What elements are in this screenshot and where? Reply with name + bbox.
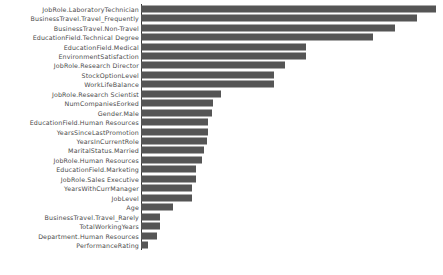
bar-track (141, 5, 436, 12)
feature-importance-bar-chart: JobRole.LaboratoryTechnicianBusinessTrav… (0, 0, 443, 275)
bar-row: JobRole.Sales Executive (0, 174, 443, 183)
bar-row: BusinessTravel.Travel_Rarely (0, 212, 443, 221)
bar-row: EnvironmentSatisfaction (0, 51, 443, 60)
bar-fill (141, 81, 274, 88)
bar-fill (141, 24, 395, 31)
bar-track (141, 204, 173, 211)
bar-track (141, 194, 192, 201)
bar-fill (141, 185, 192, 192)
bar-category-label: EducationField.Medical (64, 43, 139, 50)
bar-fill (141, 223, 160, 230)
bar-track (141, 119, 208, 126)
bar-row: JobLevel (0, 193, 443, 202)
bar-fill (141, 62, 285, 69)
bar-track (141, 128, 208, 135)
bar-category-label: YearsSinceLastPromotion (57, 128, 139, 135)
bar-track (141, 43, 306, 50)
bar-row: BusinessTravel.Non-Travel (0, 23, 443, 32)
bar-fill (141, 156, 202, 163)
bar-fill (141, 175, 196, 182)
bar-category-label: StockOptionLevel (82, 71, 139, 78)
bar-track (141, 232, 157, 239)
bar-track (141, 185, 192, 192)
bar-row: TotalWorkingYears (0, 221, 443, 230)
bar-track (141, 62, 285, 69)
bar-row: YearsWithCurrManager (0, 184, 443, 193)
bar-track (141, 175, 196, 182)
bar-category-label: JobRole.Human Resources (53, 156, 139, 163)
bar-fill (141, 43, 306, 50)
bar-category-label: PerformanceRating (76, 241, 139, 248)
bar-row: YearsSinceLastPromotion (0, 127, 443, 136)
bar-category-label: JobRole.Research Director (54, 62, 139, 69)
bar-row: WorkLifeBalance (0, 80, 443, 89)
bar-row: JobRole.Research Scientist (0, 89, 443, 98)
bar-category-label: MaritalStatus.Married (68, 147, 139, 154)
bar-category-label: YearsWithCurrManager (64, 185, 139, 192)
bar-track (141, 81, 274, 88)
bar-category-label: EnvironmentSatisfaction (58, 52, 139, 59)
bar-track (141, 109, 212, 116)
bar-track (141, 223, 160, 230)
bar-category-label: Age (126, 204, 139, 211)
bar-category-label: JobRole.LaboratoryTechnician (42, 5, 139, 12)
bar-category-label: JobRole.Sales Executive (61, 175, 139, 182)
bar-track (141, 100, 213, 107)
bar-category-label: Department.Human Resources (38, 232, 139, 239)
bar-category-label: BusinessTravel.Non-Travel (54, 24, 139, 31)
bar-fill (141, 128, 208, 135)
bar-category-label: TotalWorkingYears (79, 223, 139, 230)
bar-track (141, 71, 274, 78)
bar-track (141, 166, 196, 173)
bar-category-label: EducationField.Technical Degree (33, 34, 139, 41)
bar-category-label: Gender.Male (98, 109, 139, 116)
bar-fill (141, 241, 148, 248)
bar-category-label: YearsInCurrentRole (77, 138, 139, 145)
bar-fill (141, 166, 196, 173)
bar-row: Gender.Male (0, 108, 443, 117)
bar-track (141, 15, 417, 22)
bar-category-label: EducationField.Marketing (56, 166, 139, 173)
bar-fill (141, 100, 213, 107)
bar-row: EducationField.Medical (0, 42, 443, 51)
bar-fill (141, 147, 204, 154)
bar-fill (141, 15, 417, 22)
bar-category-label: JobLevel (111, 194, 139, 201)
bar-fill (141, 34, 373, 41)
bar-fill (141, 213, 160, 220)
bar-fill (141, 138, 207, 145)
bar-track (141, 24, 395, 31)
plot-area: JobRole.LaboratoryTechnicianBusinessTrav… (0, 0, 443, 275)
bar-row: NumCompaniesEorked (0, 99, 443, 108)
bar-fill (141, 119, 208, 126)
bar-row: JobRole.LaboratoryTechnician (0, 4, 443, 13)
bar-fill (141, 204, 173, 211)
bar-category-label: JobRole.Research Scientist (52, 90, 139, 97)
bar-row: EducationField.Marketing (0, 165, 443, 174)
bar-track (141, 241, 148, 248)
bar-fill (141, 232, 157, 239)
bar-category-label: BusinessTravel.Travel_Frequently (31, 15, 139, 22)
bar-track (141, 34, 373, 41)
bar-category-label: EducationField.Human Resources (30, 119, 139, 126)
bar-category-label: BusinessTravel.Travel_Rarely (45, 213, 139, 220)
bar-fill (141, 52, 306, 59)
bar-track (141, 147, 204, 154)
bar-row: BusinessTravel.Travel_Frequently (0, 13, 443, 22)
bar-row: JobRole.Research Director (0, 61, 443, 70)
bar-fill (141, 109, 212, 116)
bar-row: PerformanceRating (0, 240, 443, 249)
bar-row: EducationField.Technical Degree (0, 32, 443, 41)
bar-row: Department.Human Resources (0, 231, 443, 240)
bar-fill (141, 90, 221, 97)
bar-fill (141, 5, 436, 12)
bar-track (141, 213, 160, 220)
bar-row: MaritalStatus.Married (0, 146, 443, 155)
bar-fill (141, 71, 274, 78)
bar-row: YearsInCurrentRole (0, 136, 443, 145)
bar-fill (141, 194, 192, 201)
bar-track (141, 138, 207, 145)
bar-track (141, 90, 221, 97)
bar-row: StockOptionLevel (0, 70, 443, 79)
bar-category-label: NumCompaniesEorked (65, 100, 139, 107)
